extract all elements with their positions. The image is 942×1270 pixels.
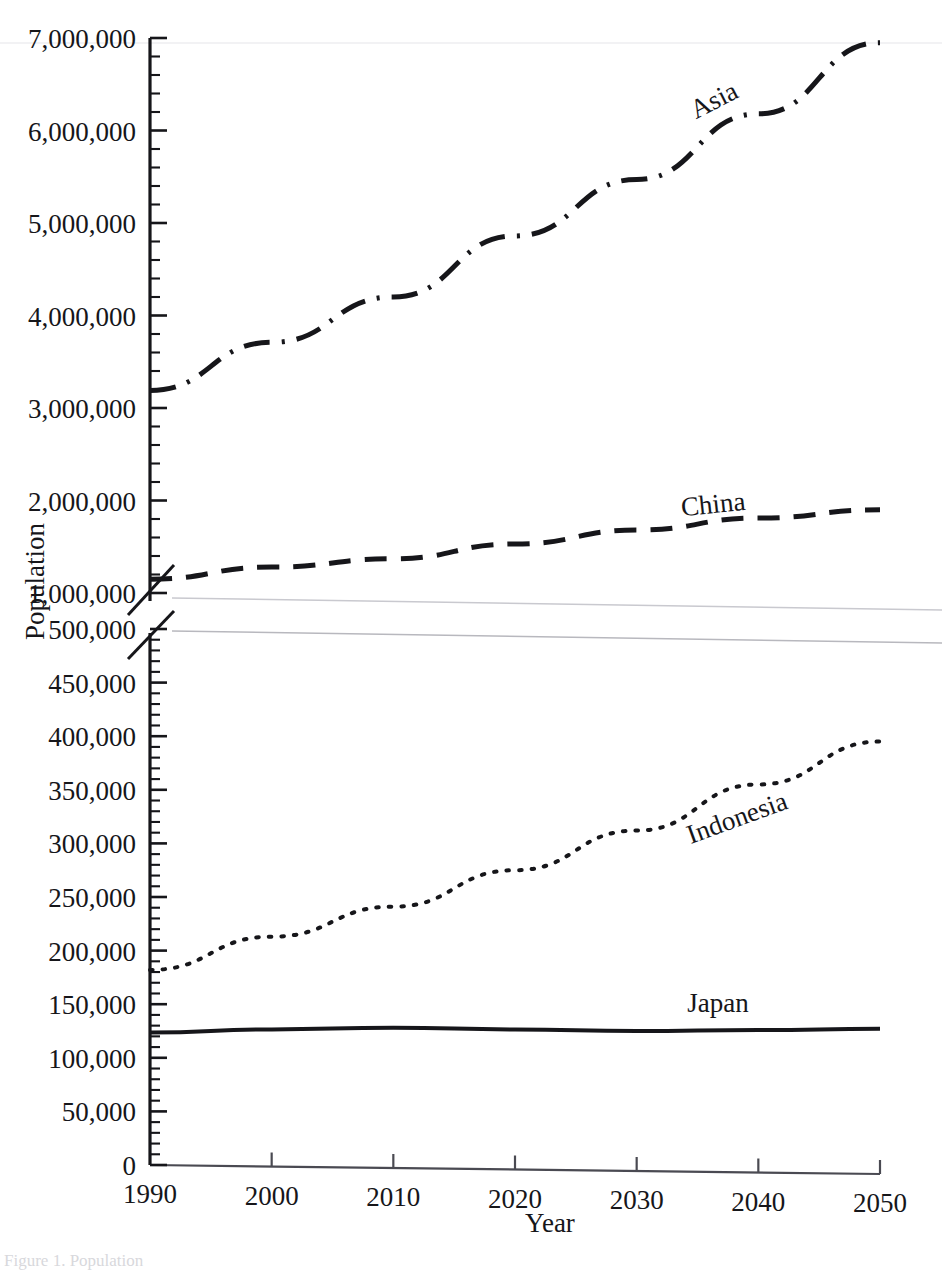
series-label-japan: Japan xyxy=(687,988,749,1018)
x-tick-label: 2050 xyxy=(853,1188,907,1218)
break-gridline-upper xyxy=(172,598,942,610)
y-tick-label-lower: 500,000 xyxy=(48,615,136,645)
series-line-indonesia xyxy=(150,742,880,970)
figure-caption: Figure 1. Population xyxy=(4,1252,143,1269)
y-tick-label-upper: 5,000,000 xyxy=(28,209,136,239)
series-line-china xyxy=(150,510,880,579)
break-gridline-lower xyxy=(172,631,942,643)
x-axis-title: Year xyxy=(525,1208,575,1238)
y-tick-label-upper: 4,000,000 xyxy=(28,302,136,332)
y-tick-label-upper: 3,000,000 xyxy=(28,394,136,424)
y-tick-label-lower: 300,000 xyxy=(48,829,136,859)
y-tick-label-upper: 7,000,000 xyxy=(28,24,136,54)
x-tick-label: 1990 xyxy=(123,1179,177,1209)
series-label-indonesia: Indonesia xyxy=(682,785,791,849)
y-tick-label-upper: 6,000,000 xyxy=(28,117,136,147)
x-tick-label: 2010 xyxy=(366,1182,420,1212)
y-tick-label-upper: 2,000,000 xyxy=(28,487,136,517)
y-tick-label-lower: 200,000 xyxy=(48,937,136,967)
y-tick-label-lower: 400,000 xyxy=(48,722,136,752)
series-line-japan xyxy=(150,1028,880,1033)
y-tick-label-lower: 350,000 xyxy=(48,776,136,806)
y-axis-title: Population xyxy=(20,523,50,641)
x-tick-label: 2030 xyxy=(610,1185,664,1215)
y-tick-label-lower: 150,000 xyxy=(48,990,136,1020)
series-line-asia xyxy=(150,43,880,391)
x-tick-label: 2040 xyxy=(731,1187,785,1217)
y-tick-label-lower: 450,000 xyxy=(48,669,136,699)
y-tick-label-lower: 100,000 xyxy=(48,1044,136,1074)
y-tick-label-lower: 50,000 xyxy=(62,1097,136,1127)
series-label-asia: Asia xyxy=(685,75,743,124)
y-tick-label-lower: 250,000 xyxy=(48,883,136,913)
y-tick-label-lower: 0 xyxy=(123,1151,137,1181)
x-tick-label: 2000 xyxy=(245,1181,299,1211)
